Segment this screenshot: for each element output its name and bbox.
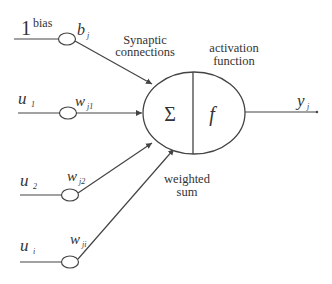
neuron-body: Σ f xyxy=(143,72,245,154)
neuron-diagram: 1 bias b j u 1 w j1 u 2 w j2 u i w ji Σ xyxy=(0,0,332,284)
input-u1-sub: 1 xyxy=(31,100,35,109)
bias-weight-node xyxy=(59,33,76,45)
input-ui-label: u xyxy=(20,236,29,255)
output-sub: j xyxy=(306,102,310,111)
input-u2-sub: 2 xyxy=(33,182,37,191)
synaptic-label-2: connections xyxy=(115,45,175,59)
input-ui: u i w ji xyxy=(20,149,174,268)
bias-weight-label: b xyxy=(77,21,85,38)
activation-label-2: function xyxy=(213,54,255,68)
weighted-label-2: sum xyxy=(177,185,198,199)
activation-label-1: activation xyxy=(209,41,259,55)
weight-ji-label: w xyxy=(70,231,80,247)
output: y j xyxy=(245,91,318,113)
input-u2-label: u xyxy=(20,171,29,190)
input-u1: u 1 w j1 xyxy=(18,89,142,119)
weight-j2-sub: j2 xyxy=(78,177,85,186)
weight-ji-sub: ji xyxy=(81,240,86,249)
weight-node-j1 xyxy=(60,107,77,119)
input-ui-sub: i xyxy=(33,247,35,256)
bias-weight-sub: j xyxy=(86,31,90,40)
weight-node-ji xyxy=(62,256,79,268)
sum-symbol: Σ xyxy=(164,103,176,125)
bias-label: bias xyxy=(33,16,53,30)
weight-j1-sub: j1 xyxy=(86,102,93,111)
input-u2: u 2 w j2 xyxy=(20,143,152,201)
bias-value: 1 xyxy=(21,17,31,39)
weight-j2-label: w xyxy=(67,168,77,184)
output-label: y xyxy=(295,91,305,110)
weighted-label-1: weighted xyxy=(164,172,211,186)
weight-j1-label: w xyxy=(75,93,85,109)
weight-node-j2 xyxy=(62,189,79,201)
input-u1-label: u xyxy=(18,89,27,108)
